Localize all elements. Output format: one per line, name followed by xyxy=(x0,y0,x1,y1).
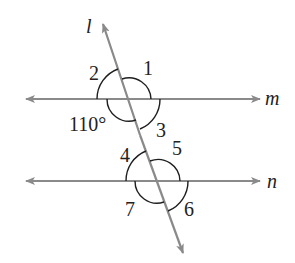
parallel-lines-diagram: l m n 2 1 110° 3 4 5 7 6 xyxy=(0,0,295,263)
label-angle-6: 6 xyxy=(184,198,194,220)
arc-angle-2 xyxy=(97,69,118,99)
label-angle-3: 3 xyxy=(156,119,166,141)
label-angle-110: 110° xyxy=(69,113,106,135)
label-angle-4: 4 xyxy=(120,144,130,166)
label-line-n: n xyxy=(267,170,277,192)
label-line-m: m xyxy=(265,87,279,109)
label-angle-7: 7 xyxy=(125,198,135,220)
label-line-l: l xyxy=(86,15,92,37)
label-angle-1: 1 xyxy=(143,57,153,79)
label-angle-5: 5 xyxy=(172,137,182,159)
label-angle-2: 2 xyxy=(89,62,99,84)
